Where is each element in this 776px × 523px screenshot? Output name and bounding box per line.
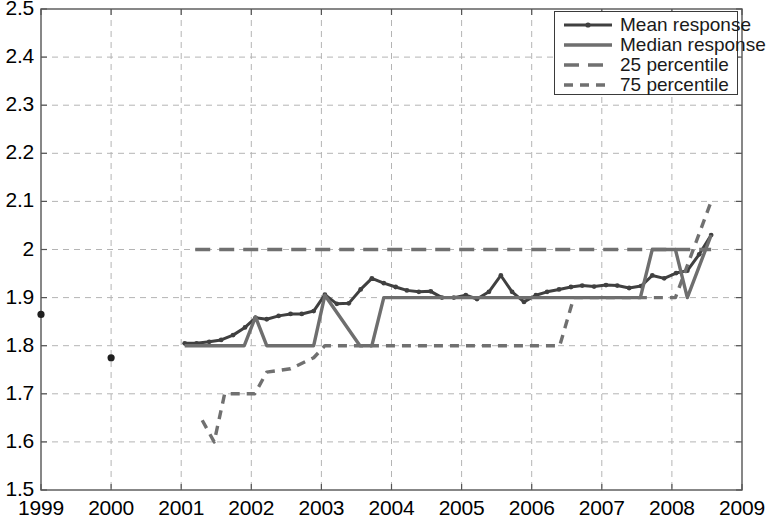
series-marker xyxy=(569,285,574,290)
x-axis-label-2009: 2009 xyxy=(707,496,776,520)
x-axis-label-2007: 2007 xyxy=(567,496,637,520)
y-axis-label-2: 2 xyxy=(23,237,34,261)
legend-label: 75 percentile xyxy=(620,75,729,94)
y-axis-label-1-8: 1.8 xyxy=(5,333,34,357)
legend-line-sample xyxy=(562,16,614,34)
series-marker xyxy=(510,289,515,294)
legend-line-sample xyxy=(562,36,614,54)
series-marker xyxy=(592,284,597,289)
x-axis-label-2003: 2003 xyxy=(286,496,356,520)
legend-label: Mean response xyxy=(620,15,751,34)
series-marker xyxy=(369,276,374,281)
x-axis-label-2001: 2001 xyxy=(146,496,216,520)
legend-item-median-response: Median response xyxy=(555,34,737,55)
legend-item-mean-response: Mean response xyxy=(555,14,737,35)
y-axis-label-1-9: 1.9 xyxy=(5,285,34,309)
scatter-point xyxy=(108,354,115,361)
series-marker xyxy=(405,288,410,293)
scatter-point xyxy=(37,311,44,318)
series-marker xyxy=(557,287,562,292)
series-marker xyxy=(393,285,398,290)
x-axis-label-2006: 2006 xyxy=(497,496,567,520)
series-line-mean-response xyxy=(185,235,711,343)
series-marker xyxy=(522,300,527,305)
legend-line-sample xyxy=(562,56,614,74)
series-marker xyxy=(627,286,632,291)
series-line-median-response xyxy=(185,235,711,346)
scatter-points xyxy=(37,311,114,361)
series-marker xyxy=(650,273,655,278)
y-axis-label-2-4: 2.4 xyxy=(5,44,34,68)
series-marker xyxy=(545,289,550,294)
series-marker xyxy=(662,276,667,281)
data-series xyxy=(182,201,713,442)
series-marker xyxy=(311,309,316,314)
series-marker xyxy=(207,339,212,344)
series-marker xyxy=(276,313,281,318)
chart-legend: Mean responseMedian response25 percentil… xyxy=(554,11,738,95)
series-marker xyxy=(674,271,679,276)
y-axis-label-2-2: 2.2 xyxy=(5,140,34,164)
series-marker xyxy=(416,289,421,294)
x-axis-label-1999: 1999 xyxy=(6,496,76,520)
x-axis-label-2000: 2000 xyxy=(76,496,146,520)
series-marker xyxy=(498,273,503,278)
series-marker xyxy=(264,317,269,322)
legend-label: Median response xyxy=(620,35,766,54)
y-axis-label-2-1: 2.1 xyxy=(5,188,34,212)
series-marker xyxy=(604,283,609,288)
legend-item-75-percentile: 75 percentile xyxy=(555,74,737,95)
chart-figure: 1.51.61.71.81.922.12.22.32.42.5 19992000… xyxy=(0,0,776,523)
y-axis-label-1-6: 1.6 xyxy=(5,429,34,453)
y-axis-label-2-5: 2.5 xyxy=(5,0,34,20)
series-marker xyxy=(219,338,224,343)
x-axis-label-2008: 2008 xyxy=(637,496,707,520)
series-marker xyxy=(299,312,304,317)
series-marker xyxy=(334,301,339,306)
y-axis-label-1-7: 1.7 xyxy=(5,381,34,405)
series-marker xyxy=(346,301,351,306)
y-axis-label-2-3: 2.3 xyxy=(5,92,34,116)
series-marker xyxy=(358,287,363,292)
series-marker xyxy=(697,252,702,257)
series-line-75-percentile xyxy=(202,201,711,442)
series-marker xyxy=(381,281,386,286)
series-marker xyxy=(428,289,433,294)
series-marker xyxy=(231,333,236,338)
legend-line-sample xyxy=(562,76,614,94)
series-marker xyxy=(580,283,585,288)
x-axis-label-2004: 2004 xyxy=(357,496,427,520)
x-axis-label-2002: 2002 xyxy=(216,496,286,520)
series-marker xyxy=(615,283,620,288)
x-axis-label-2005: 2005 xyxy=(427,496,497,520)
series-marker xyxy=(243,325,248,330)
series-marker xyxy=(487,289,492,294)
series-marker xyxy=(288,312,293,317)
legend-label: 25 percentile xyxy=(620,55,729,74)
legend-item-25-percentile: 25 percentile xyxy=(555,54,737,75)
